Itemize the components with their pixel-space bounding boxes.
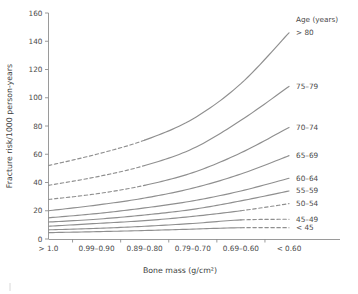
series-segment-dashed — [49, 140, 145, 165]
y-axis-title: Fracture risk/1000 person-years — [5, 64, 14, 188]
x-tick-label: 0.89–0.80 — [127, 244, 163, 253]
x-axis: > 1.00.99–0.900.89–0.800.79–0.700.69–0.6… — [38, 239, 340, 275]
series-segment-solid — [49, 211, 241, 227]
x-tick-label: < 0.60 — [277, 244, 302, 253]
y-tick-label: 60 — [33, 150, 43, 159]
y-tick-label: 80 — [33, 122, 43, 131]
series--80 — [49, 33, 290, 166]
legend-entry-label: 65–69 — [296, 151, 319, 160]
legend-entry-label: 75–79 — [296, 82, 319, 91]
legend-entry-label: > 80 — [296, 28, 314, 37]
series-70-74 — [49, 127, 290, 199]
series-75-79 — [49, 86, 290, 185]
chart-canvas: 020406080100120140160 Fracture risk/1000… — [0, 0, 358, 294]
y-axis: 020406080100120140160 Fracture risk/1000… — [5, 9, 49, 244]
series-segment-solid — [145, 33, 289, 140]
chart-legend: Age (years)> 8075–7970–7465–6960–6455–59… — [296, 15, 338, 232]
y-tick-label: 20 — [33, 206, 43, 215]
y-tick-label: 140 — [29, 37, 43, 46]
x-tick-label: 0.99–0.90 — [79, 244, 115, 253]
legend-entry-label: 60–64 — [296, 174, 319, 183]
series-65-69 — [49, 156, 290, 211]
series-segment-dashed — [241, 204, 289, 211]
legend-entry-label: 50–54 — [296, 199, 319, 208]
x-tick-label: > 1.0 — [38, 244, 58, 253]
x-tick-group: > 1.00.99–0.900.89–0.800.79–0.700.69–0.6… — [38, 239, 301, 253]
x-axis-title: Bone mass (g/cm²) — [143, 266, 217, 275]
x-tick-label: 0.79–0.70 — [175, 244, 211, 253]
series-segment-dashed — [49, 185, 145, 199]
y-tick-label: 100 — [29, 93, 43, 102]
legend-entry-label: < 45 — [296, 223, 314, 232]
fracture-risk-chart: 020406080100120140160 Fracture risk/1000… — [0, 0, 358, 294]
y-tick-label: 120 — [29, 65, 43, 74]
legend-entry-label: 55–59 — [296, 186, 319, 195]
y-tick-label: 0 — [38, 235, 43, 244]
y-tick-label: 160 — [29, 9, 43, 18]
series-segment-solid — [145, 86, 289, 165]
series-lines — [49, 33, 290, 233]
series-segment-dashed — [49, 166, 145, 186]
series-segment-solid — [49, 228, 241, 233]
legend-entry-label: 70–74 — [296, 123, 319, 132]
legend-title: Age (years) — [296, 15, 338, 24]
y-tick-label: 40 — [33, 178, 43, 187]
y-tick-group: 020406080100120140160 — [29, 9, 49, 244]
x-tick-label: 0.69–0.60 — [223, 244, 259, 253]
series-segment-solid — [49, 156, 290, 211]
series-segment-dashed — [241, 219, 289, 220]
